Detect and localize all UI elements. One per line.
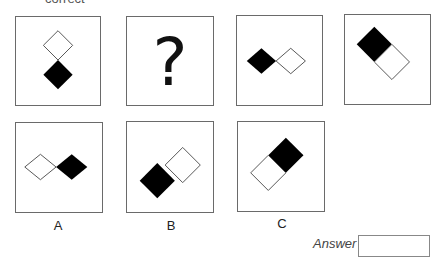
square-diagonal-pair-icon xyxy=(345,15,430,104)
square-diagonal-pair-icon xyxy=(238,122,324,211)
option-label-c: C xyxy=(272,216,292,231)
instruction-text-cropped: correct xyxy=(45,0,85,6)
question-box-unknown: ? xyxy=(126,16,214,106)
answer-label: Answer xyxy=(313,236,356,251)
option-label-a: A xyxy=(48,218,68,233)
option-box-b[interactable] xyxy=(126,121,214,213)
question-box-3 xyxy=(236,15,323,106)
diamond-horizontal-pair-icon xyxy=(16,123,102,212)
diamond-horizontal-pair-icon xyxy=(237,16,322,105)
diamond-vertical-pair-icon xyxy=(16,17,100,105)
question-box-1 xyxy=(15,16,101,106)
answer-input[interactable] xyxy=(358,235,430,257)
question-box-4 xyxy=(344,14,431,105)
option-box-a[interactable] xyxy=(15,122,103,213)
option-box-c[interactable] xyxy=(237,121,325,212)
question-mark-icon: ? xyxy=(127,23,213,103)
option-label-b: B xyxy=(161,218,181,233)
square-diagonal-pair-icon xyxy=(127,122,213,212)
